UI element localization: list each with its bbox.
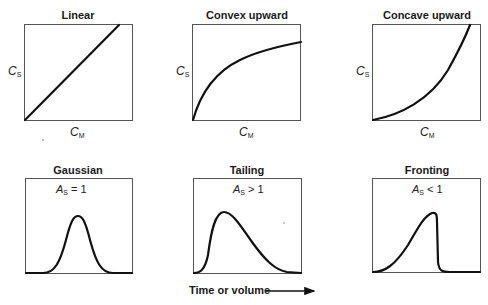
y-axis-label: CS	[8, 64, 22, 78]
peak-curve	[373, 213, 480, 272]
speck	[283, 222, 285, 224]
peak-fronting: Fronting AS < 1	[373, 164, 481, 273]
asymmetry-annotation: AS < 1	[411, 183, 443, 196]
time-or-volume-text: Time or volume	[189, 284, 270, 296]
peak-curve	[194, 212, 301, 273]
peak-title: Fronting	[405, 164, 450, 176]
time-axis-label: Time or volume	[189, 284, 314, 296]
speck	[42, 139, 44, 141]
isotherm-curve	[373, 25, 470, 120]
peak-title: Gaussian	[53, 164, 103, 176]
isotherm-linear: Linear CS CM	[8, 9, 133, 141]
plot-frame	[25, 25, 133, 121]
peak-title: Tailing	[230, 164, 265, 176]
peak-gaussian: Gaussian AS = 1	[26, 164, 133, 274]
chromatography-diagram: Linear CS CM Convex upward CS CM Concave…	[0, 0, 488, 305]
x-axis-label: CM	[70, 125, 85, 139]
asymmetry-annotation: AS = 1	[55, 183, 87, 196]
y-axis-label: CS	[176, 64, 190, 78]
asymmetry-annotation: AS > 1	[232, 183, 264, 196]
isotherm-title: Convex upward	[206, 9, 288, 21]
isotherm-concave: Concave upward CS CM	[356, 9, 481, 139]
peak-tailing: Tailing AS > 1	[194, 164, 302, 274]
x-axis-label: CM	[239, 125, 254, 139]
isotherm-curve	[25, 25, 119, 120]
isotherm-title: Linear	[61, 9, 95, 21]
x-axis-label: CM	[420, 125, 435, 139]
plot-frame	[193, 25, 301, 121]
isotherm-convex: Convex upward CS CM	[176, 9, 301, 139]
isotherm-curve	[193, 42, 301, 120]
peak-curve	[26, 216, 132, 273]
isotherm-title: Concave upward	[383, 9, 471, 21]
y-axis-label: CS	[356, 64, 370, 78]
